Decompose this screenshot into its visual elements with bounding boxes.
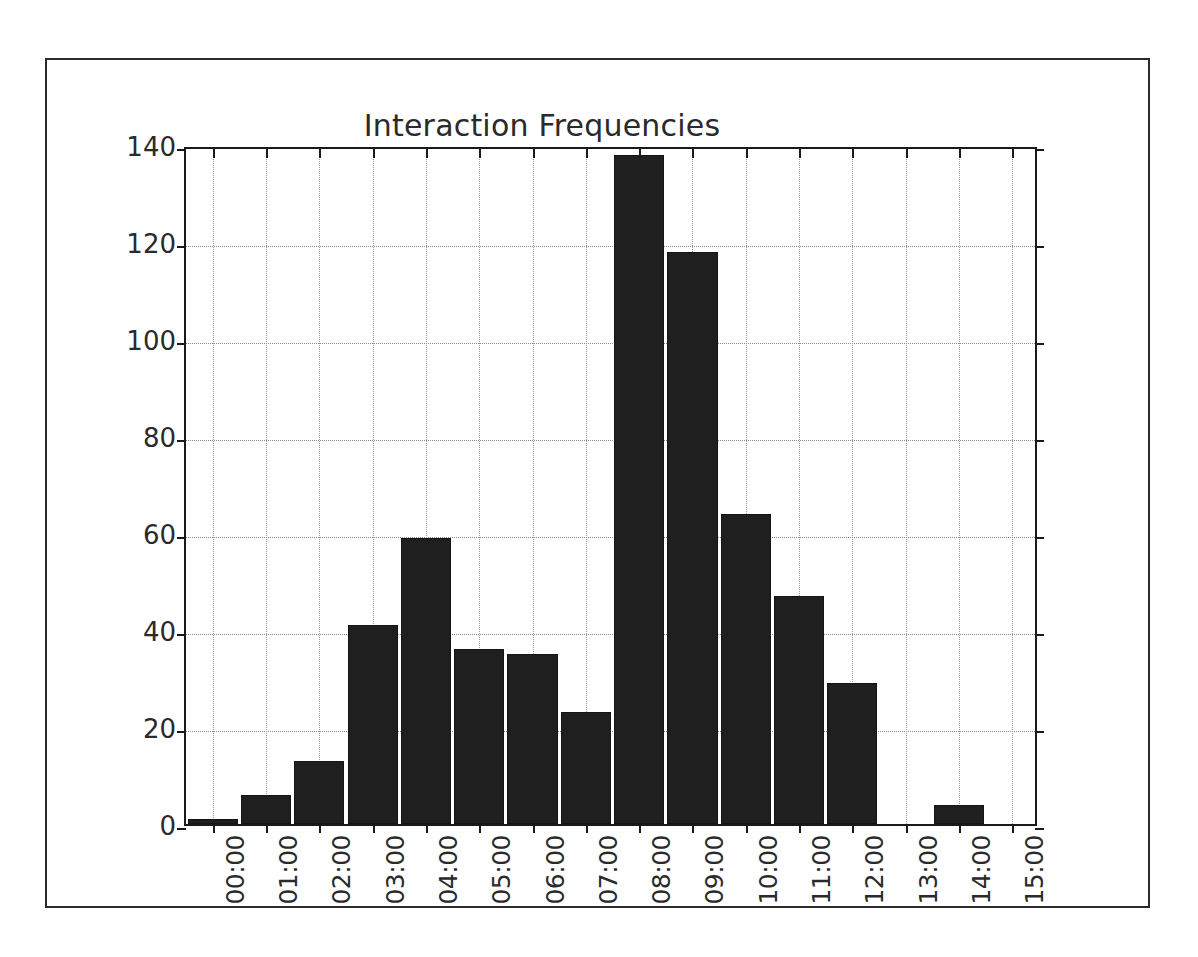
x-axis-tick-top bbox=[373, 149, 375, 158]
x-axis-tick bbox=[692, 824, 694, 833]
bar bbox=[774, 596, 824, 824]
y-axis-tick bbox=[177, 149, 186, 151]
chart-figure: Interaction Frequencies 0204060801001201… bbox=[47, 60, 1152, 910]
x-axis-tick-labels: 00:0001:0002:0003:0004:0005:0006:0007:00… bbox=[184, 835, 1037, 940]
x-gridline bbox=[213, 149, 214, 824]
y-axis-tick-label: 0 bbox=[159, 811, 176, 841]
y-axis-tick bbox=[177, 246, 186, 248]
plot-area bbox=[184, 147, 1037, 826]
x-axis-tick-top bbox=[479, 149, 481, 158]
y-axis-tick-label: 120 bbox=[126, 229, 176, 259]
y-axis-tick-labels: 020406080100120140 bbox=[102, 147, 176, 826]
scanned-page-frame: Interaction Frequencies 0204060801001201… bbox=[45, 58, 1150, 908]
x-axis-tick-top bbox=[426, 149, 428, 158]
bar bbox=[348, 625, 398, 824]
x-axis-tick-top bbox=[1012, 149, 1014, 158]
x-axis-tick-label: 02:00 bbox=[327, 835, 356, 905]
x-axis-tick-label: 09:00 bbox=[700, 835, 729, 905]
bar bbox=[507, 654, 557, 824]
x-axis-tick-top bbox=[746, 149, 748, 158]
y-gridline bbox=[186, 634, 1035, 635]
x-axis-tick-label: 10:00 bbox=[754, 835, 783, 905]
plot-inner bbox=[186, 149, 1035, 824]
y-axis-tick bbox=[177, 440, 186, 442]
bar bbox=[561, 712, 611, 824]
x-gridline bbox=[266, 149, 267, 824]
x-axis-tick-label: 06:00 bbox=[541, 835, 570, 905]
y-gridline bbox=[186, 246, 1035, 247]
y-axis-tick-right bbox=[1035, 343, 1044, 345]
x-gridline bbox=[319, 149, 320, 824]
y-axis-tick-right bbox=[1035, 731, 1044, 733]
y-axis-tick-label: 100 bbox=[126, 326, 176, 356]
y-gridline bbox=[186, 537, 1035, 538]
x-axis-tick-label: 08:00 bbox=[647, 835, 676, 905]
x-axis-tick bbox=[266, 824, 268, 833]
x-axis-tick bbox=[533, 824, 535, 833]
x-axis-tick-label: 03:00 bbox=[381, 835, 410, 905]
x-axis-tick bbox=[479, 824, 481, 833]
y-gridline bbox=[186, 440, 1035, 441]
bar bbox=[934, 805, 984, 824]
x-axis-tick bbox=[959, 824, 961, 833]
x-axis-tick bbox=[586, 824, 588, 833]
y-axis-tick-right bbox=[1035, 634, 1044, 636]
bar bbox=[401, 538, 451, 824]
bar bbox=[827, 683, 877, 824]
x-axis-tick-label: 00:00 bbox=[221, 835, 250, 905]
x-axis-tick bbox=[639, 824, 641, 833]
x-axis-tick bbox=[319, 824, 321, 833]
x-axis-tick bbox=[373, 824, 375, 833]
x-axis-tick bbox=[746, 824, 748, 833]
x-axis-tick-label: 04:00 bbox=[434, 835, 463, 905]
x-axis-tick-top bbox=[906, 149, 908, 158]
x-gridline bbox=[1012, 149, 1013, 824]
y-axis-tick-label: 140 bbox=[126, 132, 176, 162]
y-axis-tick-right bbox=[1035, 440, 1044, 442]
x-axis-tick-label: 15:00 bbox=[1020, 835, 1049, 905]
x-axis-tick-label: 12:00 bbox=[860, 835, 889, 905]
x-axis-tick-label: 01:00 bbox=[274, 835, 303, 905]
bar bbox=[614, 155, 664, 824]
x-axis-tick bbox=[852, 824, 854, 833]
y-axis-tick bbox=[177, 634, 186, 636]
x-axis-tick bbox=[213, 824, 215, 833]
y-axis-tick-right bbox=[1035, 537, 1044, 539]
x-axis-tick bbox=[906, 824, 908, 833]
x-axis-tick-top bbox=[266, 149, 268, 158]
y-gridline bbox=[186, 343, 1035, 344]
y-axis-tick-label: 60 bbox=[143, 520, 176, 550]
bar bbox=[454, 649, 504, 824]
y-axis-tick bbox=[177, 343, 186, 345]
y-axis-tick-right bbox=[1035, 149, 1044, 151]
x-gridline bbox=[906, 149, 907, 824]
x-axis-tick-label: 14:00 bbox=[967, 835, 996, 905]
y-axis-tick-right bbox=[1035, 828, 1044, 830]
x-axis-tick-top bbox=[213, 149, 215, 158]
x-axis-tick bbox=[1012, 824, 1014, 833]
x-axis-tick-top bbox=[959, 149, 961, 158]
y-axis-tick-label: 80 bbox=[143, 423, 176, 453]
x-axis-tick-top bbox=[692, 149, 694, 158]
x-axis-tick-label: 11:00 bbox=[807, 835, 836, 905]
y-axis-tick-label: 20 bbox=[143, 714, 176, 744]
x-axis-tick-top bbox=[586, 149, 588, 158]
x-axis-tick-label: 05:00 bbox=[487, 835, 516, 905]
bar bbox=[721, 514, 771, 824]
x-axis-tick-top bbox=[799, 149, 801, 158]
bar bbox=[667, 252, 717, 824]
y-axis-tick-right bbox=[1035, 246, 1044, 248]
x-axis-tick-top bbox=[319, 149, 321, 158]
y-axis-tick bbox=[177, 828, 186, 830]
y-axis-tick-label: 40 bbox=[143, 617, 176, 647]
bar bbox=[241, 795, 291, 824]
x-axis-tick bbox=[799, 824, 801, 833]
x-axis-tick bbox=[426, 824, 428, 833]
chart-title: Interaction Frequencies bbox=[47, 108, 1037, 143]
x-axis-tick-top bbox=[639, 149, 641, 158]
y-axis-tick bbox=[177, 731, 186, 733]
y-axis-tick bbox=[177, 537, 186, 539]
x-axis-tick-top bbox=[852, 149, 854, 158]
x-axis-tick-top bbox=[533, 149, 535, 158]
x-gridline bbox=[959, 149, 960, 824]
